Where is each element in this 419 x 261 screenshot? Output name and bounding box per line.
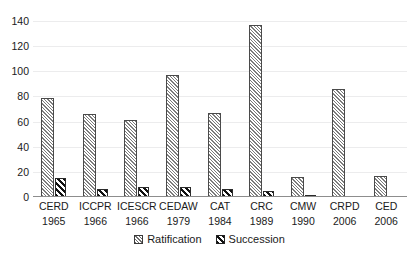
x-tick-label-name: CED	[365, 199, 407, 214]
legend-label: Succession	[229, 234, 285, 245]
legend-item: Ratification	[134, 234, 201, 245]
x-tick-label-name: ICCPR	[75, 199, 117, 214]
chart-legend: RatificationSuccession	[0, 234, 419, 245]
x-tick-label-name: CAT	[199, 199, 241, 214]
x-tick-label: ICCPR1966	[75, 199, 117, 229]
gridline	[33, 71, 407, 72]
y-axis: 020406080100120140	[0, 0, 29, 261]
x-tick-label: CED2006	[365, 199, 407, 229]
x-tick-label: ICESCR1966	[116, 199, 158, 229]
legend-swatch-icon	[216, 235, 225, 244]
x-tick-label-year: 1966	[116, 214, 158, 229]
legend-label: Ratification	[147, 234, 201, 245]
x-tick-label-name: CERD	[33, 199, 75, 214]
legend-item: Succession	[216, 234, 285, 245]
y-tick-label: 0	[3, 192, 29, 203]
y-tick-label: 20	[3, 167, 29, 178]
bar-succession	[55, 178, 66, 197]
x-tick-label-year: 1984	[199, 214, 241, 229]
x-tick-label: CRPD2006	[324, 199, 366, 229]
x-tick-label: CMW1990	[282, 199, 324, 229]
bar-ratification	[374, 176, 387, 197]
x-tick-label-year: 2006	[365, 214, 407, 229]
y-tick-label: 120	[3, 41, 29, 52]
x-tick-label: CERD1965	[33, 199, 75, 229]
x-tick-label-name: CRPD	[324, 199, 366, 214]
legend-swatch-icon	[134, 235, 143, 244]
bar-chart: 020406080100120140 CERD1965ICCPR1966ICES…	[0, 0, 419, 261]
x-axis-line	[33, 196, 407, 197]
y-tick-label: 60	[3, 117, 29, 128]
x-tick-label-name: CMW	[282, 199, 324, 214]
x-tick-label-year: 1979	[158, 214, 200, 229]
x-tick-label-year: 2006	[324, 214, 366, 229]
gridline	[33, 96, 407, 97]
caption-strip	[0, 255, 419, 261]
x-tick-label: CEDAW1979	[158, 199, 200, 229]
x-tick-label: CRC1989	[241, 199, 283, 229]
x-tick-label-year: 1966	[75, 214, 117, 229]
y-tick-label: 40	[3, 142, 29, 153]
x-tick-label-name: CRC	[241, 199, 283, 214]
y-tick-label: 140	[3, 16, 29, 27]
y-tick-label: 100	[3, 66, 29, 77]
bar-ratification	[332, 89, 345, 197]
bar-ratification	[291, 177, 304, 197]
x-tick-label-year: 1965	[33, 214, 75, 229]
bar-ratification	[41, 98, 54, 197]
x-tick-label-year: 1990	[282, 214, 324, 229]
bar-ratification	[208, 113, 221, 197]
x-tick-label-year: 1989	[241, 214, 283, 229]
x-axis-labels: CERD1965ICCPR1966ICESCR1966CEDAW1979CAT1…	[33, 199, 407, 233]
plot-area	[33, 21, 407, 197]
bar-ratification	[166, 75, 179, 197]
bar-ratification	[249, 25, 262, 197]
x-tick-label-name: ICESCR	[116, 199, 158, 214]
bar-ratification	[124, 120, 137, 197]
x-tick-label: CAT1984	[199, 199, 241, 229]
gridline	[33, 46, 407, 47]
y-tick-label: 80	[3, 91, 29, 102]
gridline	[33, 21, 407, 22]
x-tick-label-name: CEDAW	[158, 199, 200, 214]
bar-ratification	[83, 114, 96, 197]
